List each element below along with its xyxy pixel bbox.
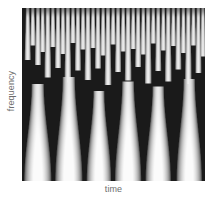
plot-area xyxy=(22,8,205,181)
figure-root: frequency time xyxy=(0,0,214,206)
x-axis-label-text: time xyxy=(105,184,122,194)
time-frequency-heatmap xyxy=(22,8,205,181)
y-axis-label-text: frequency xyxy=(6,70,16,110)
x-axis-label: time xyxy=(22,184,205,206)
y-axis-label: frequency xyxy=(0,0,22,181)
